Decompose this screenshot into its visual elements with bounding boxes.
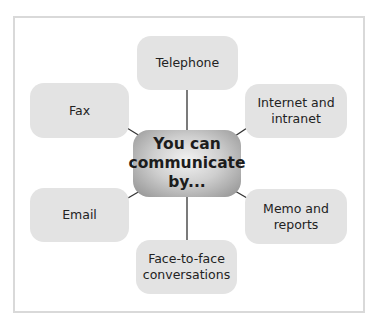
node-face-to-face: Face-to-face conversations [136, 240, 237, 294]
node-label-line2: intranet [257, 111, 334, 127]
center-line3: by... [128, 173, 245, 192]
node-label-line2: reports [263, 217, 329, 233]
node-fax: Fax [30, 83, 129, 138]
center-line1: You can [128, 135, 245, 154]
node-memo: Memo and reports [245, 189, 347, 244]
node-label-line1: Internet and [257, 95, 334, 111]
node-label-line1: Face-to-face [143, 251, 230, 267]
node-email: Email [30, 188, 129, 242]
node-telephone: Telephone [137, 36, 238, 90]
node-label: Fax [69, 103, 90, 119]
node-label: Email [62, 207, 97, 223]
node-label-line1: Memo and [263, 201, 329, 217]
node-label-line2: conversations [143, 267, 230, 283]
node-label: Telephone [156, 55, 219, 71]
center-node: You can communicate by... [133, 130, 241, 197]
node-internet: Internet and intranet [245, 84, 347, 138]
center-line2: communicate [128, 154, 245, 173]
